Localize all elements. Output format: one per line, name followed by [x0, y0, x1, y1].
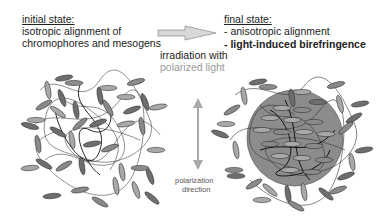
isotropic-mesogens — [21, 74, 168, 209]
polarization-arrow-icon — [193, 98, 203, 170]
diagram-graphics — [0, 0, 389, 221]
process-arrow-icon — [158, 26, 216, 40]
